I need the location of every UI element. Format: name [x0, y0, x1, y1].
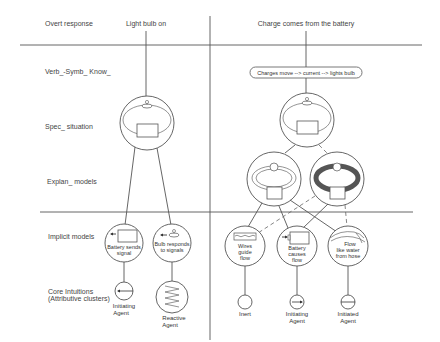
node-label: Initiating	[113, 303, 135, 309]
right-connector	[303, 204, 328, 228]
node-label: Agent	[340, 318, 356, 324]
right-connector	[279, 206, 288, 228]
left-spec-situation-node	[120, 96, 174, 150]
right-spec-situation-node	[280, 93, 334, 147]
node-label: from hose	[336, 253, 360, 259]
row-label-core-1: Core Intuitions	[48, 288, 94, 295]
node-label: flow	[292, 257, 302, 263]
node-label: Initiating	[286, 311, 308, 317]
node-label: signal	[117, 250, 131, 256]
node-label: Agent	[162, 322, 178, 328]
left-connector	[157, 148, 171, 225]
right-dashed-connector	[319, 145, 327, 153]
row-label-core-2: (Attributive clusters)	[48, 295, 110, 303]
wire-icon	[234, 233, 256, 240]
pill-text: Charges move --> current --> lights bulb	[257, 70, 355, 76]
right-dashed-connector	[345, 205, 347, 227]
node-label: flow	[240, 255, 250, 261]
node-label: Inert	[239, 311, 251, 317]
implicit-node-wires-guide-flow: Wires guide flow	[225, 226, 265, 266]
core-node-initiated-agent: Initiated Agent	[337, 295, 358, 324]
right-connector	[248, 203, 262, 227]
diagram-canvas: Overt response Verb_-Symb_ Know_ Spec_ s…	[0, 0, 440, 342]
right-overt-response: Charge comes from the battery	[258, 20, 355, 28]
implicit-node-flow-like-water: Flow like water from hose	[328, 226, 368, 266]
explan-node-thick-flow	[310, 152, 364, 206]
row-label-implicit: Implicit models	[48, 233, 95, 241]
implicit-node-bulb-responds: Bulb responds to signals	[153, 224, 191, 262]
verbal-knowledge-pill: Charges move --> current --> lights bulb	[250, 67, 362, 78]
core-node-initiating-agent: Initiating Agent	[113, 282, 135, 316]
core-node-initiating-agent-right: Initiating Agent	[286, 295, 308, 324]
row-label-overt: Overt response	[45, 20, 93, 28]
row-label-explan: Explan_ models	[47, 178, 97, 186]
row-label-spec: Spec_ situation	[45, 123, 93, 131]
core-node-reactive-agent: Reactive Agent	[156, 281, 188, 328]
core-node-inert: Inert	[238, 295, 252, 317]
node-label: Initiated	[337, 311, 358, 317]
left-connector	[125, 147, 135, 225]
implicit-node-battery-sends-signal: Battery sends signal	[105, 224, 143, 262]
implicit-node-battery-causes-flow: Battery causes flow	[277, 226, 317, 266]
node-label: Reactive	[162, 315, 186, 321]
explan-node-wire-loops	[247, 152, 301, 206]
battery-icon	[290, 232, 309, 244]
right-connector	[285, 145, 295, 153]
node-label: Agent	[113, 310, 129, 316]
left-overt-response: Light bulb on	[126, 20, 166, 28]
node-label: Agent	[289, 318, 305, 324]
row-label-verbal: Verb_-Symb_ Know_	[45, 68, 111, 76]
node-label: to signals	[160, 247, 183, 253]
